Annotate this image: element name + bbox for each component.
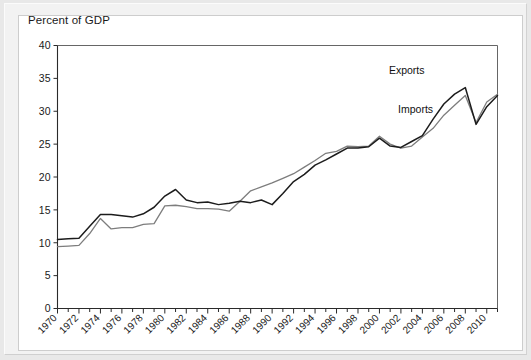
x-tick-label: 1988 bbox=[229, 312, 253, 336]
x-tick-label: 1990 bbox=[250, 312, 274, 336]
series-labels-group: ExportsImports bbox=[389, 64, 433, 115]
x-tick-label: 1986 bbox=[207, 312, 231, 336]
x-tick-label: 2000 bbox=[357, 312, 381, 336]
x-tick-label: 1994 bbox=[293, 312, 317, 336]
x-tick-label: 1982 bbox=[164, 312, 188, 336]
x-tick-label: 2008 bbox=[443, 312, 467, 336]
line-chart: 0510152025303540 19701972197419761978198… bbox=[0, 0, 531, 360]
x-tick-label: 1992 bbox=[272, 312, 296, 336]
x-tick-label: 1972 bbox=[57, 312, 81, 336]
screenshot-root: Percent of GDP 0510152025303540 19701972… bbox=[0, 0, 531, 360]
x-tick-label: 1970 bbox=[35, 312, 59, 336]
y-tick-label: 30 bbox=[39, 105, 51, 117]
x-tick-label: 2004 bbox=[400, 312, 424, 336]
y-tick-label: 25 bbox=[39, 138, 51, 150]
y-tick-label: 40 bbox=[39, 39, 51, 51]
x-tick-label: 2006 bbox=[422, 312, 446, 336]
series-label-exports: Exports bbox=[389, 64, 425, 76]
axis-lines bbox=[58, 46, 498, 309]
x-tick-label: 1974 bbox=[78, 312, 102, 336]
y-tick-label: 15 bbox=[39, 204, 51, 216]
x-tick-label: 1998 bbox=[336, 312, 360, 336]
x-tick-label: 2010 bbox=[465, 312, 489, 336]
y-tick-label: 20 bbox=[39, 171, 51, 183]
y-tick-label: 10 bbox=[39, 237, 51, 249]
x-tick-label: 1984 bbox=[186, 312, 210, 336]
x-axis-ticks: 1970197219741976197819801982198419861988… bbox=[35, 309, 497, 336]
y-tick-label: 5 bbox=[45, 269, 51, 281]
y-axis-ticks: 0510152025303540 bbox=[39, 39, 58, 314]
series-line-exports bbox=[58, 94, 498, 247]
x-tick-label: 2002 bbox=[379, 312, 403, 336]
x-tick-label: 1980 bbox=[143, 312, 167, 336]
series-label-imports: Imports bbox=[398, 103, 433, 115]
x-tick-label: 1978 bbox=[121, 312, 145, 336]
x-tick-label: 1996 bbox=[314, 312, 338, 336]
y-tick-label: 35 bbox=[39, 72, 51, 84]
x-tick-label: 1976 bbox=[100, 312, 124, 336]
